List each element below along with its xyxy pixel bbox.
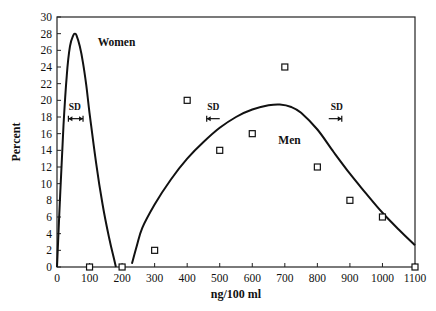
data-point (379, 214, 385, 220)
y-tick-label: 14 (41, 144, 53, 156)
data-point (87, 264, 93, 270)
annotation-layer: WomenMenSDSDSD (68, 36, 343, 146)
points-layer (87, 64, 418, 270)
y-tick-label: 2 (46, 244, 52, 256)
data-point (184, 97, 190, 103)
x-tick-label: 1100 (404, 272, 427, 284)
data-point (412, 264, 418, 270)
x-tick-label: 300 (146, 272, 164, 284)
label-men: Men (278, 134, 301, 146)
plot-frame (57, 17, 415, 267)
y-tick-label: 26 (41, 44, 53, 56)
x-tick-label: 100 (81, 272, 99, 284)
x-axis-title: ng/100 ml (211, 287, 262, 301)
series-line-women (57, 34, 116, 267)
x-tick-label: 0 (54, 272, 60, 284)
sd-label: SD (69, 102, 81, 112)
y-tick-label: 10 (41, 178, 53, 190)
x-tick-label: 400 (179, 272, 197, 284)
y-tick-label: 16 (41, 128, 53, 140)
x-axis: 010020030040050060070080090010001100 (54, 263, 426, 284)
data-point (152, 247, 158, 253)
y-tick-label: 30 (41, 11, 53, 23)
data-point (119, 264, 125, 270)
y-tick-label: 22 (41, 78, 53, 90)
y-tick-label: 6 (46, 211, 52, 223)
x-tick-label: 900 (341, 272, 359, 284)
data-point (217, 147, 223, 153)
y-tick-label: 8 (46, 194, 52, 206)
y-tick-label: 0 (46, 261, 52, 273)
data-point (314, 164, 320, 170)
series-line-men (132, 104, 415, 263)
x-tick-label: 500 (211, 272, 229, 284)
y-tick-label: 28 (41, 28, 53, 40)
chart: 010020030040050060070080090010001100 024… (0, 0, 436, 311)
data-point (282, 64, 288, 70)
series-layer (57, 34, 415, 267)
y-tick-label: 18 (41, 111, 53, 123)
y-tick-label: 24 (41, 61, 53, 73)
sd-arrow-head (207, 116, 211, 121)
label-women: Women (98, 36, 136, 48)
sd-label: SD (331, 102, 343, 112)
y-tick-label: 12 (41, 161, 53, 173)
sd-label: SD (207, 102, 219, 112)
y-tick-label: 20 (41, 94, 53, 106)
x-tick-label: 1000 (371, 272, 394, 284)
plot-border (57, 17, 415, 267)
x-tick-label: 800 (309, 272, 327, 284)
y-axis-title: Percent (9, 122, 23, 161)
x-tick-label: 200 (113, 272, 131, 284)
y-tick-label: 4 (46, 228, 52, 240)
x-tick-label: 700 (276, 272, 294, 284)
data-point (249, 131, 255, 137)
data-point (347, 197, 353, 203)
x-tick-label: 600 (244, 272, 262, 284)
